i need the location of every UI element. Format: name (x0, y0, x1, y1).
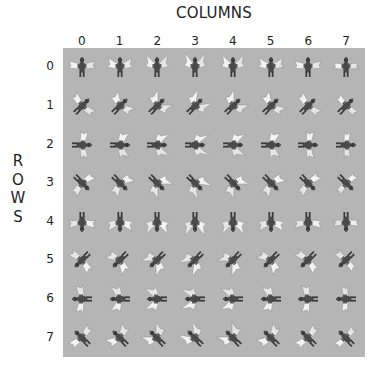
rows-title-letter: O (10, 171, 26, 190)
sprite-cell-r4-c4 (214, 203, 252, 242)
creature-sprite-icon (292, 206, 324, 238)
column-label-1: 1 (101, 34, 139, 48)
rows-title-letter: R (10, 152, 26, 171)
sprite-cell-r6-c0 (63, 280, 101, 319)
creature-sprite-icon (66, 283, 98, 315)
sprite-cell-r1-c1 (101, 87, 139, 126)
creature-sprite-icon (66, 206, 98, 238)
sprite-cell-r1-c7 (327, 87, 365, 126)
row-label-5: 5 (40, 252, 60, 266)
creature-sprite-icon (255, 206, 287, 238)
creature-sprite-icon (330, 90, 362, 122)
column-label-5: 5 (252, 34, 290, 48)
creature-sprite-icon (255, 90, 287, 122)
row-label-3: 3 (40, 175, 60, 189)
sprite-cell-r0-c7 (327, 48, 365, 87)
creature-sprite-icon (141, 90, 173, 122)
creature-sprite-icon (141, 129, 173, 161)
sprite-cell-r5-c5 (252, 241, 290, 280)
creature-sprite-icon (217, 90, 249, 122)
rows-title-letter: S (10, 208, 26, 227)
creature-sprite-icon (141, 322, 173, 354)
column-label-4: 4 (214, 34, 252, 48)
sprite-cell-r2-c1 (101, 125, 139, 164)
sprite-cell-r7-c6 (290, 318, 328, 357)
creature-sprite-icon (330, 244, 362, 276)
sprite-cell-r7-c1 (101, 318, 139, 357)
creature-sprite-icon (217, 283, 249, 315)
sprite-cell-r3-c6 (290, 164, 328, 203)
rows-title-letter: W (10, 189, 26, 208)
sprite-cell-r3-c2 (139, 164, 177, 203)
sprite-cell-r2-c5 (252, 125, 290, 164)
sprite-cell-r3-c0 (63, 164, 101, 203)
creature-sprite-icon (292, 322, 324, 354)
column-label-0: 0 (63, 34, 101, 48)
sprite-cell-r5-c2 (139, 241, 177, 280)
column-label-6: 6 (290, 34, 328, 48)
sprite-cell-r1-c0 (63, 87, 101, 126)
sprite-cell-r1-c5 (252, 87, 290, 126)
creature-sprite-icon (255, 129, 287, 161)
creature-sprite-icon (104, 129, 136, 161)
sprite-cell-r6-c6 (290, 280, 328, 319)
creature-sprite-icon (104, 244, 136, 276)
sprite-cell-r2-c0 (63, 125, 101, 164)
sprite-cell-r4-c2 (139, 203, 177, 242)
sprite-cell-r4-c3 (176, 203, 214, 242)
sprite-cell-r0-c2 (139, 48, 177, 87)
row-label-4: 4 (40, 214, 60, 228)
creature-sprite-icon (66, 322, 98, 354)
creature-sprite-icon (217, 322, 249, 354)
creature-sprite-icon (255, 283, 287, 315)
sprite-cell-r2-c3 (176, 125, 214, 164)
sprite-cell-r4-c6 (290, 203, 328, 242)
creature-sprite-icon (179, 90, 211, 122)
sprite-cell-r7-c5 (252, 318, 290, 357)
sprite-cell-r0-c6 (290, 48, 328, 87)
column-labels: 01234567 (63, 34, 365, 48)
creature-sprite-icon (255, 167, 287, 199)
sprite-cell-r6-c5 (252, 280, 290, 319)
creature-sprite-icon (330, 129, 362, 161)
sprite-cell-r5-c6 (290, 241, 328, 280)
sprite-cell-r1-c2 (139, 87, 177, 126)
creature-sprite-icon (141, 51, 173, 83)
sprite-cell-r4-c7 (327, 203, 365, 242)
creature-sprite-icon (66, 90, 98, 122)
sprite-cell-r0-c0 (63, 48, 101, 87)
sprite-cell-r1-c6 (290, 87, 328, 126)
creature-sprite-icon (141, 167, 173, 199)
creature-sprite-icon (141, 206, 173, 238)
sprite-grid (63, 48, 365, 357)
creature-sprite-icon (179, 51, 211, 83)
creature-sprite-icon (330, 206, 362, 238)
creature-sprite-icon (330, 283, 362, 315)
creature-sprite-icon (217, 206, 249, 238)
creature-sprite-icon (217, 244, 249, 276)
sprite-cell-r4-c1 (101, 203, 139, 242)
sprite-cell-r0-c4 (214, 48, 252, 87)
creature-sprite-icon (179, 244, 211, 276)
creature-sprite-icon (217, 129, 249, 161)
sprite-cell-r1-c4 (214, 87, 252, 126)
row-label-6: 6 (40, 291, 60, 305)
column-label-3: 3 (176, 34, 214, 48)
creature-sprite-icon (66, 167, 98, 199)
sprite-cell-r2-c7 (327, 125, 365, 164)
creature-sprite-icon (292, 167, 324, 199)
creature-sprite-icon (179, 129, 211, 161)
sprite-cell-r3-c3 (176, 164, 214, 203)
creature-sprite-icon (255, 322, 287, 354)
creature-sprite-icon (141, 244, 173, 276)
sprite-cell-r2-c2 (139, 125, 177, 164)
creature-sprite-icon (104, 206, 136, 238)
creature-sprite-icon (217, 167, 249, 199)
creature-sprite-icon (330, 51, 362, 83)
creature-sprite-icon (292, 129, 324, 161)
sprite-cell-r6-c4 (214, 280, 252, 319)
sprite-cell-r2-c6 (290, 125, 328, 164)
creature-sprite-icon (217, 51, 249, 83)
column-label-7: 7 (327, 34, 365, 48)
creature-sprite-icon (66, 244, 98, 276)
